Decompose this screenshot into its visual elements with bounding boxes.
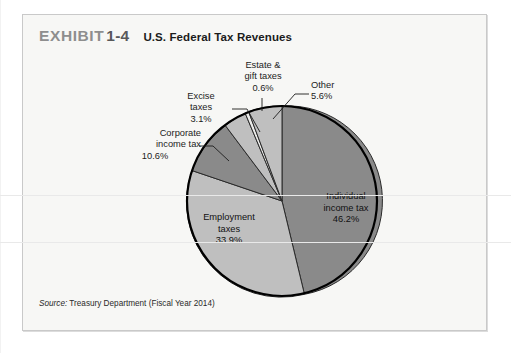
source-note: Source: Treasury Department (Fiscal Year… bbox=[39, 299, 215, 308]
scan-artifact-line-upper bbox=[0, 195, 511, 196]
source-text: Treasury Department (Fiscal Year 2014) bbox=[67, 299, 214, 308]
label-other: Other 5.6% bbox=[311, 80, 371, 103]
label-estate-gift-taxes: Estate & gift taxes 0.6% bbox=[222, 60, 304, 94]
pie-chart: Corporate income tax 10.6% Excise taxes … bbox=[23, 15, 488, 332]
scan-artifact-line-lower bbox=[0, 242, 511, 243]
source-prefix: Source: bbox=[39, 299, 67, 308]
label-individual-income-tax: Individual income tax 46.2% bbox=[303, 191, 389, 226]
scan-artifact-vertical bbox=[0, 0, 1, 353]
exhibit-panel: EXHIBIT1-4U.S. Federal Tax Revenues bbox=[22, 14, 487, 331]
label-excise-taxes: Excise taxes 3.1% bbox=[171, 91, 231, 125]
label-corporate-income-tax: Corporate income tax 10.6% bbox=[123, 128, 201, 162]
